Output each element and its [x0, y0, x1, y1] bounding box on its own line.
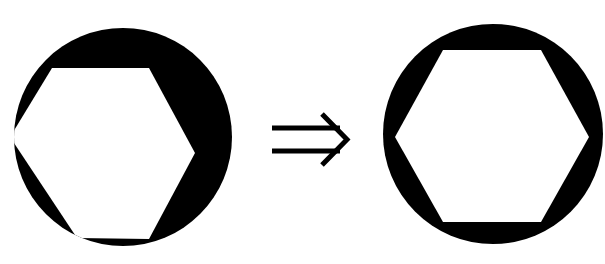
hexagon-transform-diagram — [0, 0, 605, 264]
right-figure — [383, 24, 603, 244]
implies-arrow-icon — [272, 114, 347, 165]
left-figure — [10, 28, 232, 246]
diagram-canvas — [0, 0, 605, 264]
